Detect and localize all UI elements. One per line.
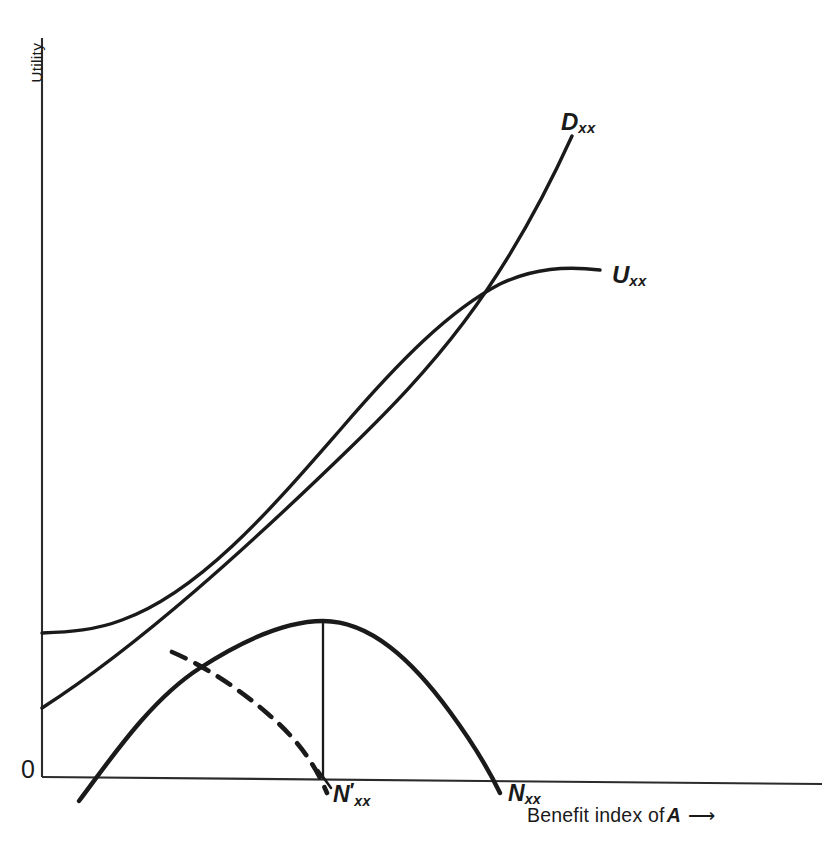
curve-u-xx — [42, 268, 600, 633]
curve-label-d-xx: Dxx — [561, 110, 596, 136]
curve-n-xx — [79, 621, 500, 801]
x-axis-label-text: Benefit index of — [527, 804, 665, 826]
curve-label-nprime-main: N — [333, 781, 350, 807]
x-axis-variable: A — [665, 804, 683, 826]
curve-label-u-xx: Uxx — [612, 263, 647, 289]
curve-label-n-main: N — [508, 780, 525, 806]
chart-figure: Utility 0 Dxx Uxx Nxx N′xx Benefit index… — [0, 0, 838, 851]
y-axis-label: Utility — [29, 18, 45, 108]
x-axis-arrow-icon: ⟶ — [683, 806, 715, 825]
curve-label-nprime-sub: xx — [354, 793, 370, 809]
x-axis-line — [42, 777, 822, 784]
curve-label-n-xx: Nxx — [508, 782, 541, 806]
chart-svg — [0, 0, 838, 851]
curve-label-n-xx-prime: N′xx — [333, 781, 371, 808]
curve-label-u-main: U — [612, 261, 629, 288]
origin-label: 0 — [21, 757, 35, 782]
curve-label-d-sub: xx — [578, 120, 595, 136]
curve-label-d-main: D — [561, 108, 578, 135]
curve-label-u-sub: xx — [629, 273, 646, 289]
x-axis-label: Benefit index ofA⟶ — [527, 806, 715, 826]
